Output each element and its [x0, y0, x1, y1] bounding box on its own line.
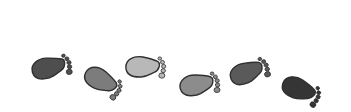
footprint-6: [279, 71, 324, 109]
footprint-1: [30, 53, 72, 80]
footprints-svg: [0, 0, 351, 112]
footprint-2: [81, 61, 126, 102]
footprints-scene: [0, 0, 351, 112]
footprint-5: [227, 56, 271, 87]
footprint-3: [125, 54, 167, 79]
footprint-4: [179, 71, 221, 96]
